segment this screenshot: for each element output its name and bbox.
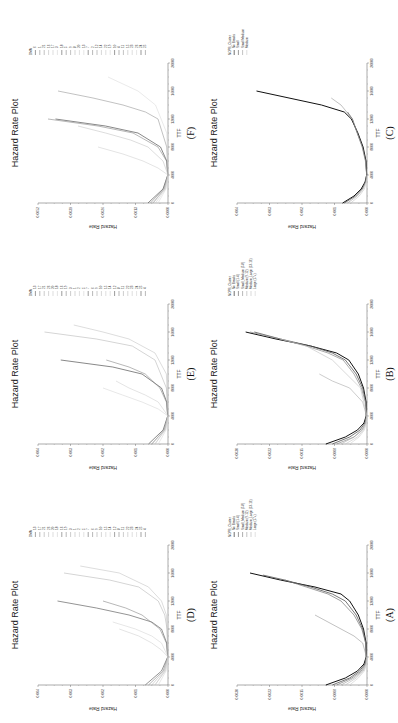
legend-item: 11 (121, 286, 125, 289)
y-tick-label: 0.003 (268, 207, 272, 216)
series-line (250, 573, 366, 685)
x-axis-label-b: TTF (375, 369, 381, 378)
series-line (257, 91, 367, 203)
x-tick-label: 0 (370, 202, 374, 204)
series-line (58, 91, 168, 203)
chart-d: Hazard Rate Plot0.0000.0010.0020.0030.00… (0, 482, 199, 723)
series-line (61, 360, 168, 444)
y-tick-label: 0.002 (300, 207, 304, 216)
legend-item: 2 (77, 528, 81, 530)
x-tick-label: 0 (171, 202, 175, 204)
legend-item: 23 (130, 526, 134, 530)
legend-item: 7 (86, 528, 90, 530)
legend-item: 25 (139, 285, 143, 289)
x-tick-label: 16000 (171, 568, 175, 578)
chart-title-e: Hazard Rate Plot (10, 339, 20, 408)
y-tick-label: 0.004 (36, 689, 40, 698)
y-tick-label: 0.004 (235, 207, 239, 216)
panel-label-a: (A) (384, 608, 396, 622)
chart-b: Hazard Rate Plot0.00000.00080.00150.0023… (199, 241, 398, 482)
y-tick-label: 0.0030 (235, 689, 239, 699)
panel-f: Hazard Rate Plot0.00000.00130.00260.0039… (0, 0, 199, 241)
legend-item: 24 (139, 44, 143, 48)
legend-item: 12 (113, 285, 117, 289)
x-axis-label-a: TTF (375, 610, 381, 619)
y-tick-label: 0.0052 (36, 207, 40, 217)
x-tick-label: 12000 (370, 355, 374, 365)
y-tick-label: 0.000 (166, 689, 170, 698)
panel-e: Hazard Rate Plot0.0000.0010.0020.0030.00… (0, 241, 199, 482)
legend-item: 6 (33, 46, 37, 48)
legend-item: 3 (69, 287, 73, 289)
y-axis-label-d: Hazard Rate (89, 706, 117, 712)
series-line (113, 622, 168, 685)
panel-d: Hazard Rate Plot0.0000.0010.0020.0030.00… (0, 482, 199, 723)
series-line (344, 112, 366, 203)
legend-item: 15 (104, 285, 108, 289)
series-line (58, 601, 168, 685)
x-tick-label: 16000 (370, 568, 374, 578)
legend-item: 16 (60, 285, 64, 289)
legend-item: 10 (113, 44, 117, 48)
y-tick-label: 0.004 (36, 448, 40, 457)
hazard-rate-figure: Hazard Rate Plot0.00000.00080.00150.0023… (0, 0, 398, 723)
x-axis-label-e: TTF (176, 369, 182, 378)
legend-item: 8 (117, 287, 121, 289)
x-tick-label: 4000 (171, 653, 175, 661)
legend-item: 21 (42, 526, 46, 530)
chart-c: Hazard Rate Plot0.0000.0010.0020.0030.00… (199, 0, 398, 241)
x-tick-label: 20000 (171, 299, 175, 309)
chart-f: Hazard Rate Plot0.00000.00130.00260.0039… (0, 0, 199, 241)
y-tick-label: 0.002 (101, 448, 105, 457)
legend-title-e: DMA (29, 289, 33, 296)
legend-item: 4 (143, 528, 147, 530)
x-tick-label: 4000 (370, 653, 374, 661)
legend-title-d: DMA (29, 530, 33, 537)
y-tick-label: 0.0015 (300, 448, 304, 458)
series-line (108, 77, 168, 203)
x-tick-label: 12000 (171, 114, 175, 124)
y-tick-label: 0.0030 (235, 448, 239, 458)
x-tick-label: 4000 (171, 412, 175, 420)
legend-item: 20 (51, 285, 55, 289)
x-tick-label: 20000 (171, 58, 175, 68)
legend-item: 14 (108, 285, 112, 289)
legend-item: 16 (47, 44, 51, 48)
x-tick-label: 12000 (370, 596, 374, 606)
legend-item: 6 (91, 528, 95, 530)
legend-item: 18 (55, 285, 59, 289)
x-tick-label: 8000 (171, 625, 175, 633)
y-tick-label: 0.000 (365, 207, 369, 216)
legend-item: 24 (135, 526, 139, 530)
legend-item: 22 (126, 285, 130, 289)
y-tick-label: 0.0000 (365, 689, 369, 699)
legend-item: 19 (108, 44, 112, 48)
x-tick-label: 20000 (370, 299, 374, 309)
legend-item: 1 (38, 46, 42, 48)
legend-item: 11 (121, 45, 125, 48)
legend-item: 8 (117, 528, 121, 530)
legend-item: 25 (143, 44, 147, 48)
series-line (56, 119, 168, 203)
legend-item: 17 (51, 44, 55, 48)
chart-title-f: Hazard Rate Plot (10, 98, 20, 167)
x-tick-label: 16000 (370, 86, 374, 96)
panel-label-d: (D) (185, 608, 197, 622)
y-tick-label: 0.0008 (333, 448, 337, 458)
legend-item: 3 (69, 528, 73, 530)
x-tick-label: 8000 (171, 143, 175, 151)
y-tick-label: 0.0008 (333, 689, 337, 699)
panel-label-f: (F) (185, 127, 197, 139)
legend-item: 2 (77, 287, 81, 289)
legend-item: 17 (38, 526, 42, 530)
series-line (103, 388, 168, 444)
y-axis-label-c: Hazard Rate (288, 224, 316, 230)
x-tick-label: 20000 (370, 540, 374, 550)
y-axis-label-a: Hazard Rate (288, 706, 316, 712)
legend-item: 1 (73, 528, 77, 530)
series-line (45, 332, 169, 444)
x-tick-label: 0 (171, 684, 175, 686)
y-tick-label: 0.003 (69, 689, 73, 698)
legend-item: 15 (126, 44, 130, 48)
legend-item: 26 (47, 285, 51, 289)
